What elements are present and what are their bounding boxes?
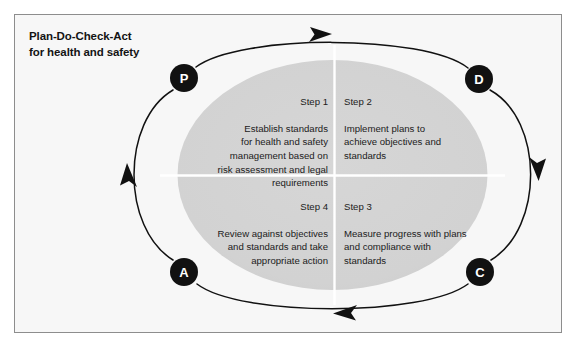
arrow-top-head	[309, 27, 332, 42]
figure-title: Plan-Do-Check-Act for health and safety	[29, 28, 139, 61]
quadrant-step-1-body: Establish standards for health and safet…	[186, 122, 328, 190]
quadrant-step-2-body: Implement plans to achieve objectives an…	[344, 122, 484, 163]
pdca-figure: P D C A Plan-Do-Check-Act for health and…	[0, 0, 576, 349]
figure-title-line-1: Plan-Do-Check-Act	[29, 30, 131, 42]
figure-title-line-2: for health and safety	[29, 46, 139, 58]
quadrant-step-4-label: Step 4	[182, 200, 328, 214]
quadrant-step-4-body: Review against objectives and standards …	[182, 227, 328, 268]
quadrant-step-4: Step 4 Review against objectives and sta…	[182, 186, 328, 281]
arrow-right-head	[529, 157, 546, 181]
quadrant-step-2: Step 2 Implement plans to achieve object…	[344, 81, 484, 176]
quadrant-step-3: Step 3 Measure progress with plans and c…	[344, 186, 489, 281]
quadrant-step-3-body: Measure progress with plans and complian…	[344, 227, 489, 268]
quadrant-step-1-label: Step 1	[186, 95, 328, 109]
quadrant-step-2-label: Step 2	[344, 95, 484, 109]
quadrant-step-3-label: Step 3	[344, 200, 489, 214]
arrow-bottom-head	[333, 305, 357, 321]
